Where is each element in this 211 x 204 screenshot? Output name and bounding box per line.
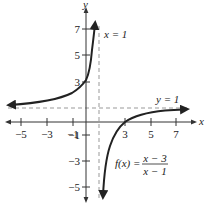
svg-text:5: 5 bbox=[148, 128, 154, 140]
graph-figure: −5 −3 −1 3 5 7 7 5 3 −1 −3 −5 x y x = 1 … bbox=[0, 0, 211, 204]
svg-text:7: 7 bbox=[173, 128, 179, 140]
function-label: f(x) = x − 3 x − 1 bbox=[115, 152, 168, 177]
svg-text:5: 5 bbox=[75, 49, 81, 61]
vertical-asymptote-label: x = 1 bbox=[103, 28, 127, 40]
svg-text:x − 3: x − 3 bbox=[142, 152, 167, 164]
svg-text:−3: −3 bbox=[68, 155, 80, 167]
curve-left-branch bbox=[10, 24, 95, 105]
x-axis-label: x bbox=[198, 115, 204, 127]
svg-text:3: 3 bbox=[122, 128, 128, 140]
svg-text:−3: −3 bbox=[41, 128, 53, 140]
svg-text:7: 7 bbox=[75, 23, 81, 35]
horizontal-asymptote-label: y = 1 bbox=[155, 93, 179, 105]
svg-text:x − 1: x − 1 bbox=[142, 165, 166, 177]
y-axis-label: y bbox=[82, 0, 88, 10]
x-tick-labels: −5 −3 −1 3 5 7 bbox=[15, 128, 179, 140]
svg-text:f(x) =: f(x) = bbox=[115, 157, 140, 170]
graph-svg: −5 −3 −1 3 5 7 7 5 3 −1 −3 −5 x y x = 1 … bbox=[0, 0, 211, 204]
svg-text:−5: −5 bbox=[68, 181, 80, 193]
svg-text:−5: −5 bbox=[15, 128, 27, 140]
svg-text:−1: −1 bbox=[68, 129, 80, 141]
